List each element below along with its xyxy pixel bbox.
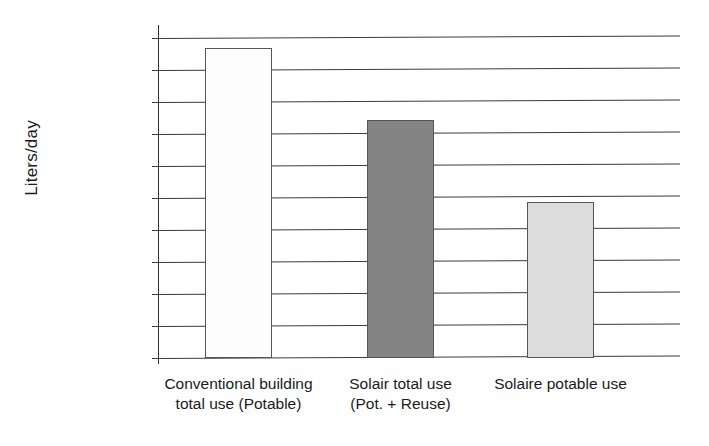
- y-axis-tick: [152, 166, 164, 167]
- gridline: [158, 35, 680, 39]
- y-axis-tick: [152, 198, 164, 199]
- x-axis-category-labels: Conventional building total use (Potable…: [0, 374, 709, 434]
- y-axis-tick: [152, 134, 164, 135]
- y-axis-tick: [152, 326, 164, 327]
- y-axis-tick: [152, 294, 164, 295]
- y-axis-tick: [152, 70, 164, 71]
- bar-3: [527, 202, 594, 358]
- y-axis-tick: [152, 230, 164, 231]
- y-axis-tick-zero: [152, 358, 164, 359]
- y-axis-line: [158, 25, 159, 364]
- bar-2: [367, 120, 434, 358]
- bar-chart-figure: Liters/day 25,00050,00075,000100,000125,…: [0, 0, 709, 446]
- y-axis-tick: [152, 262, 164, 263]
- plot-area: 25,00050,00075,000100,000125,000150,0001…: [158, 30, 681, 366]
- x-axis-label-3: Solaire potable use: [466, 374, 656, 394]
- y-axis-tick: [152, 38, 164, 39]
- y-axis-tick: [152, 102, 164, 103]
- y-axis-title: Liters/day: [22, 98, 42, 218]
- bar-1: [205, 48, 272, 358]
